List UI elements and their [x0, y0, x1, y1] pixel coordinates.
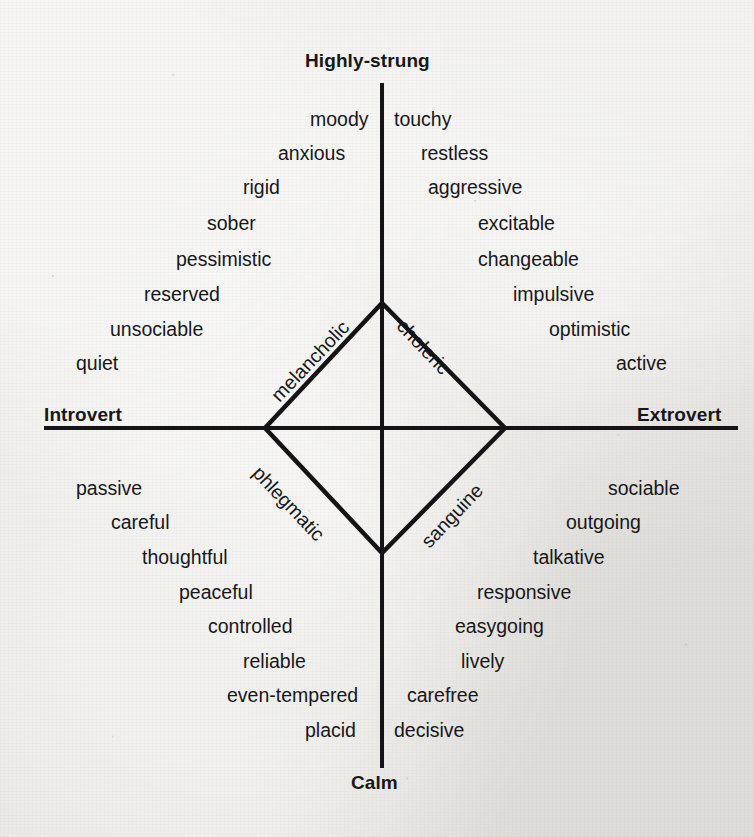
- trait-word: anxious: [278, 144, 345, 164]
- trait-word: active: [616, 354, 667, 374]
- trait-word: peaceful: [179, 583, 253, 603]
- temperament-label-choleric: choleric: [393, 316, 453, 378]
- trait-word: unsociable: [110, 320, 203, 340]
- trait-word: placid: [305, 721, 356, 741]
- horizontal-axis-line: [44, 426, 738, 430]
- pole-label-introvert: Introvert: [44, 404, 122, 426]
- trait-word: touchy: [394, 110, 451, 130]
- trait-word: careful: [111, 513, 170, 533]
- pole-label-highly-strung: Highly-strung: [305, 50, 430, 72]
- trait-word: aggressive: [428, 178, 522, 198]
- temperament-label-phlegmatic: phlegmatic: [249, 463, 328, 545]
- trait-word: moody: [310, 110, 369, 130]
- trait-word: talkative: [533, 548, 605, 568]
- eysenck-personality-diagram: Highly-strung Calm Introvert Extrovert m…: [0, 0, 754, 837]
- trait-word: rigid: [243, 178, 280, 198]
- trait-word: outgoing: [566, 513, 641, 533]
- trait-word: optimistic: [549, 320, 630, 340]
- trait-word: impulsive: [513, 285, 594, 305]
- pole-label-extrovert: Extrovert: [637, 404, 721, 426]
- trait-word: thoughtful: [142, 548, 228, 568]
- trait-word: easygoing: [455, 617, 544, 637]
- trait-word: excitable: [478, 214, 555, 234]
- temperament-label-sanguine: sanguine: [418, 481, 487, 552]
- temperament-label-melancholic: melancholic: [268, 317, 353, 405]
- trait-word: quiet: [76, 354, 118, 374]
- trait-word: sober: [207, 214, 256, 234]
- trait-word: reserved: [144, 285, 220, 305]
- trait-word: responsive: [477, 583, 571, 603]
- trait-word: sociable: [608, 479, 680, 499]
- pole-label-calm: Calm: [351, 772, 398, 794]
- trait-word: decisive: [394, 721, 464, 741]
- trait-word: changeable: [478, 250, 579, 270]
- trait-word: controlled: [208, 617, 293, 637]
- trait-word: passive: [76, 479, 142, 499]
- trait-word: pessimistic: [176, 250, 271, 270]
- trait-word: lively: [461, 652, 504, 672]
- trait-word: restless: [421, 144, 488, 164]
- trait-word: carefree: [407, 686, 479, 706]
- trait-word: even-tempered: [227, 686, 358, 706]
- trait-word: reliable: [243, 652, 306, 672]
